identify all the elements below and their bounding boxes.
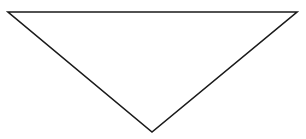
diagram-canvas [0,0,306,139]
inverted-triangle-shape [0,0,306,139]
triangle-outline [8,12,297,132]
